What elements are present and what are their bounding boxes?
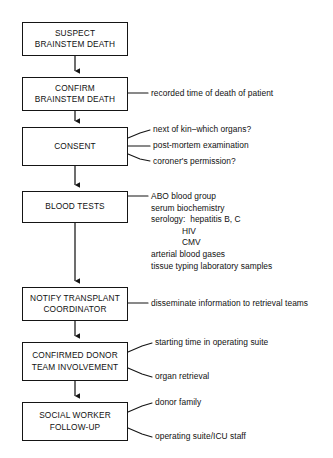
annotation-consent-next-of-kin: next of kin–which organs?	[153, 124, 251, 136]
node-notify-transplant-coordinator-label: NOTIFY TRANSPLANT COORDINATOR	[30, 293, 120, 315]
annotation-consent-post-mortem: post-mortem examination	[153, 140, 249, 152]
node-suspect-brainstem-death-label: SUSPECT BRAINSTEM DEATH	[35, 28, 115, 50]
annotation-social-operating-suite-icu: operating suite/ICU staff	[155, 431, 246, 443]
leader-social-1	[128, 403, 152, 412]
annotation-blood-serum-biochemistry: serum biochemistry	[151, 203, 272, 215]
leader-social-2	[128, 428, 152, 437]
annotation-social-donor-family: donor family	[155, 397, 201, 409]
annotation-blood-abo: ABO blood group	[151, 191, 272, 203]
leader-donorteam-1	[128, 343, 152, 352]
node-blood-tests[interactable]: BLOOD TESTS	[22, 191, 128, 223]
annotation-block-blood-tests: ABO blood group serum biochemistry serol…	[151, 191, 272, 272]
annotation-donorteam-organ-retrieval: organ retrieval	[155, 371, 209, 383]
annotation-blood-serology-hiv: HIV	[151, 226, 272, 238]
node-blood-tests-label: BLOOD TESTS	[45, 201, 105, 212]
annotation-blood-arterial-gases: arterial blood gases	[151, 249, 272, 261]
node-confirm-brainstem-death[interactable]: CONFIRM BRAINSTEM DEATH	[22, 77, 128, 111]
node-social-worker-follow-up[interactable]: SOCIAL WORKER FOLLOW-UP	[22, 402, 128, 441]
node-social-worker-follow-up-label: SOCIAL WORKER FOLLOW-UP	[39, 410, 111, 432]
node-confirm-brainstem-death-label: CONFIRM BRAINSTEM DEATH	[35, 83, 115, 105]
annotation-notify-disseminate: disseminate information to retrieval tea…	[151, 298, 308, 310]
leader-donorteam-2	[128, 368, 152, 377]
node-suspect-brainstem-death[interactable]: SUSPECT BRAINSTEM DEATH	[22, 22, 128, 56]
annotation-confirm-recorded-time: recorded time of death of patient	[151, 88, 273, 100]
node-notify-transplant-coordinator[interactable]: NOTIFY TRANSPLANT COORDINATOR	[22, 287, 128, 321]
node-confirmed-donor-team-involvement-label: CONFIRMED DONOR TEAM INVOLVEMENT	[32, 350, 119, 372]
annotation-blood-tissue-typing: tissue typing laboratory samples	[151, 261, 272, 273]
annotation-donorteam-starting-time: starting time in operating suite	[155, 337, 268, 349]
flowchart-diagram: SUSPECT BRAINSTEM DEATH CONFIRM BRAINSTE…	[0, 0, 333, 458]
leader-consent-1	[128, 130, 150, 138]
annotation-blood-serology-hepatitis: serology: hepatitis B, C	[151, 214, 272, 226]
leader-consent-3	[128, 154, 150, 161]
node-consent[interactable]: CONSENT	[22, 127, 128, 166]
node-confirmed-donor-team-involvement[interactable]: CONFIRMED DONOR TEAM INVOLVEMENT	[22, 342, 128, 381]
annotation-blood-serology-cmv: CMV	[151, 237, 272, 249]
node-consent-label: CONSENT	[54, 141, 96, 152]
annotation-consent-coroner-permission: coroner's permission?	[153, 156, 236, 168]
annotation-leader-lines	[128, 93, 152, 437]
